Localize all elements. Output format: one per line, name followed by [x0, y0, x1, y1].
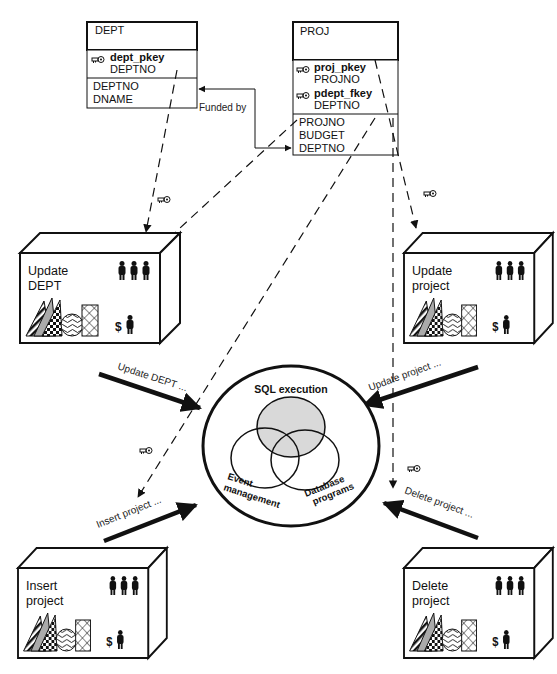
proj-fkey-name: pdept_fkey	[314, 87, 373, 99]
app-box-title: Delete	[412, 579, 448, 593]
dept-table-title: DEPT	[95, 24, 125, 36]
app-box-title: Update	[28, 264, 68, 278]
proj-column: DEPTNO	[299, 142, 345, 154]
sql-execution-circle	[257, 397, 325, 457]
app-box-update-project[interactable]: Update project	[404, 233, 553, 343]
diagram-canvas: $ DEPT dept_pkey DEPTNO DEPTNO DNAME PRO…	[0, 0, 557, 674]
app-box-title: Insert	[26, 579, 58, 593]
key-icon	[140, 448, 152, 455]
key-icon	[158, 197, 170, 204]
app-box-insert-project[interactable]: Insert project	[18, 548, 167, 658]
dept-column: DNAME	[93, 93, 133, 105]
app-box-title: project	[412, 594, 450, 608]
request-label-update-dept: Update DEPT ...	[116, 360, 188, 393]
key-icon	[408, 466, 420, 473]
dept-pkey-name: dept_pkey	[110, 51, 165, 63]
sql-engine[interactable]: SQL execution Event management Database …	[203, 366, 379, 526]
dept-pkey-column: DEPTNO	[110, 63, 156, 75]
funded-by-relationship: Funded by	[199, 89, 291, 148]
proj-table-title: PROJ	[300, 25, 329, 37]
relationship-label: Funded by	[199, 102, 246, 113]
app-box-update-dept[interactable]: Update DEPT	[20, 233, 180, 343]
proj-table[interactable]: PROJ proj_pkey PROJNO pdept_fkey DEPTNO …	[293, 22, 398, 155]
app-box-delete-project[interactable]: Delete project	[404, 548, 553, 658]
dept-table[interactable]: DEPT dept_pkey DEPTNO DEPTNO DNAME	[87, 22, 197, 108]
proj-fkey-column: DEPTNO	[314, 99, 360, 111]
key-icon	[424, 191, 436, 198]
proj-column: PROJNO	[299, 116, 345, 128]
dept-column: DEPTNO	[93, 80, 139, 92]
request-label-update-project: Update project ...	[367, 356, 442, 392]
app-box-title: Update	[412, 264, 452, 278]
engine-title: SQL execution	[254, 383, 327, 395]
proj-column: BUDGET	[299, 129, 345, 141]
app-box-title: project	[412, 279, 450, 293]
app-box-title: project	[26, 594, 64, 608]
proj-pkey-column: PROJNO	[314, 73, 360, 85]
app-box-title: DEPT	[28, 279, 62, 293]
proj-pkey-name: proj_pkey	[314, 61, 367, 73]
